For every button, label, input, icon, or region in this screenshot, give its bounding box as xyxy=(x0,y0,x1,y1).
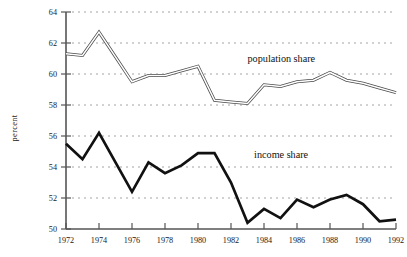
y-tick-label: 50 xyxy=(49,225,57,234)
x-tick-label: 1972 xyxy=(58,236,74,245)
x-tick-label: 1986 xyxy=(289,236,305,245)
income-share-label: income share xyxy=(254,149,309,160)
x-tick-label: 1974 xyxy=(91,236,107,245)
y-tick-label: 62 xyxy=(49,39,57,48)
x-tick-label: 1988 xyxy=(322,236,338,245)
y-tick-label: 52 xyxy=(49,194,57,203)
line-chart: 5052545658606264 19721974197619781980198… xyxy=(0,0,407,257)
x-tick-label: 1980 xyxy=(190,236,206,245)
y-tick-label: 54 xyxy=(49,163,57,172)
x-tick-label: 1992 xyxy=(388,236,404,245)
x-tick-label: 1990 xyxy=(355,236,371,245)
y-tick-label: 60 xyxy=(49,70,57,79)
x-tick-label: 1978 xyxy=(157,236,173,245)
y-tick-label: 56 xyxy=(49,132,57,141)
x-tick-label: 1982 xyxy=(223,236,239,245)
y-tick-label: 58 xyxy=(49,101,57,110)
population-share-label: population share xyxy=(248,53,316,64)
x-tick-label: 1976 xyxy=(124,236,140,245)
chart-container: 5052545658606264 19721974197619781980198… xyxy=(0,0,407,257)
x-tick-label: 1984 xyxy=(256,236,272,245)
y-tick-label: 64 xyxy=(49,8,57,17)
chart-background xyxy=(0,0,407,257)
y-axis-title: percent xyxy=(10,114,19,141)
